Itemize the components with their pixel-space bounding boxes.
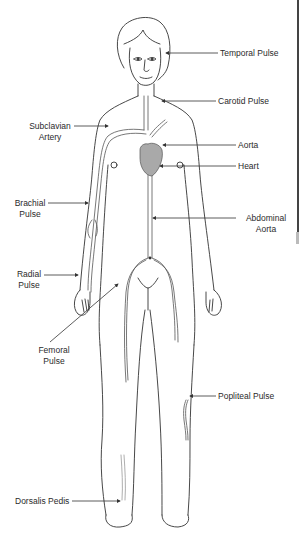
right-leg-inner	[150, 310, 162, 515]
left-breast	[111, 162, 117, 168]
right-edge-tick	[296, 232, 299, 244]
left-foot	[106, 515, 133, 527]
hair-inner	[124, 30, 160, 44]
right-torso-side	[184, 165, 195, 345]
right-hand	[206, 290, 221, 315]
label-abdominal-aorta: Abdominal Aorta	[236, 213, 296, 234]
right-foot	[162, 515, 189, 527]
aortic-bifurcation-dot	[149, 257, 152, 260]
left-leg-outer	[100, 345, 106, 515]
label-carotid-pulse: Carotid Pulse	[218, 96, 269, 107]
label-brachial-pulse: Brachial Pulse	[12, 198, 48, 219]
label-heart: Heart	[238, 161, 259, 172]
label-dorsalis-pedis: Dorsalis Pedis	[15, 496, 69, 507]
label-temporal-pulse: Temporal Pulse	[220, 48, 279, 59]
right-edge-rule	[297, 0, 299, 232]
label-femoral-pulse: Femoral Pulse	[34, 345, 74, 366]
left-shoulder	[80, 96, 138, 290]
right-leg-outer	[188, 345, 194, 515]
label-aorta: Aorta	[238, 140, 258, 151]
nose	[144, 60, 149, 72]
label-radial-pulse: Radial Pulse	[14, 269, 44, 290]
subclavian-artery	[88, 129, 144, 290]
neck	[138, 84, 154, 96]
body-figure	[0, 0, 300, 547]
femoral-pointer	[50, 284, 118, 342]
mouth	[140, 77, 152, 79]
heart	[140, 143, 162, 176]
face-outline	[129, 48, 160, 85]
pelvis	[138, 278, 158, 288]
left-leg-inner	[132, 310, 145, 515]
label-subclavian-artery: Subclavian Artery	[26, 121, 74, 142]
right-breast	[177, 162, 183, 168]
label-popliteal-pulse: Popliteal Pulse	[218, 391, 274, 402]
left-torso-side	[99, 165, 108, 345]
hair-outline	[117, 17, 170, 80]
